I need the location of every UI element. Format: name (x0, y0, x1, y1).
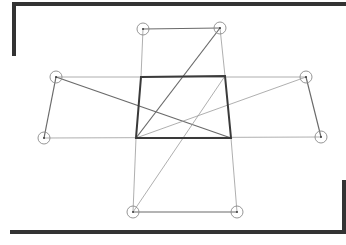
segment-4 (44, 77, 56, 138)
bottom-right-bracket (12, 182, 344, 232)
segment-10 (133, 138, 136, 212)
segment-11 (231, 138, 237, 212)
segment-9 (136, 77, 306, 138)
segment-0 (143, 28, 220, 29)
segment-13 (133, 76, 225, 212)
segment-2 (220, 28, 225, 76)
frame-brackets (12, 4, 346, 232)
diagram-canvas (0, 0, 346, 245)
segment-3 (136, 28, 220, 138)
central-square (136, 76, 231, 138)
geometry-diagram (0, 0, 346, 245)
segment-8 (306, 77, 321, 137)
segment-1 (141, 29, 143, 77)
control-points (38, 22, 327, 218)
projection-lines (44, 28, 321, 212)
